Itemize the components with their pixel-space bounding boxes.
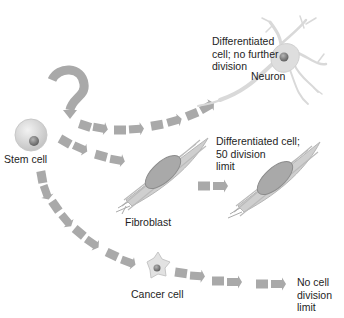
fibroblast-2-description: Differentiated cell; 50 division limit: [216, 135, 300, 173]
arrow-cancer-to-no-limit: [174, 268, 286, 291]
self-renewal-loop-arrow: [52, 70, 84, 119]
neuron-description: Differentiated cell; no further division: [212, 35, 279, 73]
cancer-cell-icon: [147, 252, 170, 278]
arrow-to-cancer-cell: [36, 170, 137, 271]
stem-cell-label: Stem cell: [4, 153, 47, 166]
fibroblast-icon: [116, 138, 208, 214]
arrow-to-neuron: [78, 97, 217, 136]
arrow-fibroblast-to-differentiated: [198, 180, 228, 193]
neuron-label: Neuron: [251, 70, 285, 83]
diagram-canvas: Differentiated cell; no further division…: [0, 0, 344, 318]
arrow-to-fibroblast: [58, 135, 126, 168]
cancer-cell-label: Cancer cell: [131, 288, 184, 301]
fibroblast-label: Fibroblast: [125, 216, 171, 229]
stem-cell-icon: [15, 119, 47, 151]
cancer-cell-description: No cell division limit: [297, 276, 332, 314]
